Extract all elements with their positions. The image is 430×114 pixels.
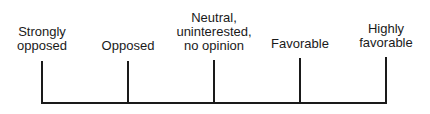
scale-tick-neutral <box>213 60 215 104</box>
scale-tick-strongly-opposed <box>41 61 43 104</box>
scale-tick-highly-favorable <box>385 57 387 102</box>
scale-label-neutral: Neutral, uninterested, no opinion <box>176 11 251 53</box>
scale-label-favorable: Favorable <box>271 37 329 51</box>
scale-tick-opposed <box>127 61 129 104</box>
scale-baseline <box>41 102 387 104</box>
scale-tick-favorable <box>299 58 301 103</box>
scale-label-strongly-opposed: Strongly opposed <box>17 25 67 53</box>
scale-label-highly-favorable: Highly favorable <box>359 22 412 50</box>
scale-label-opposed: Opposed <box>102 39 155 53</box>
